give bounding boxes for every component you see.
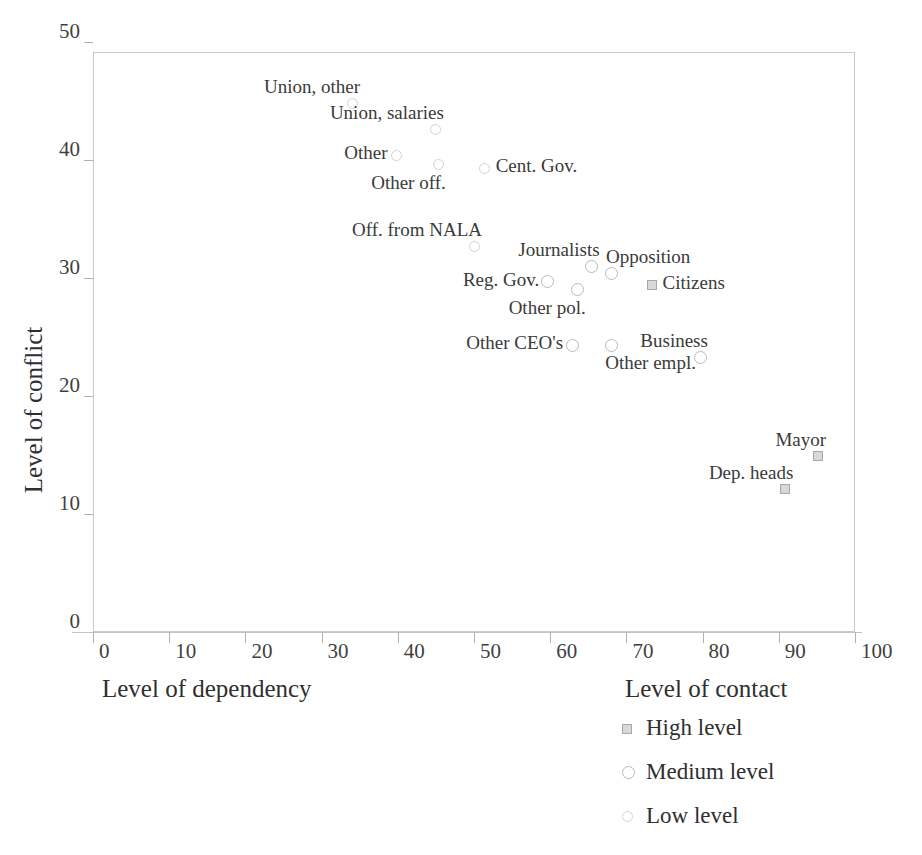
y-tick-mark	[84, 396, 93, 397]
x-tick-mark	[169, 632, 170, 643]
data-point-label: Other off.	[371, 173, 446, 193]
data-point-marker[interactable]	[605, 339, 618, 352]
x-axis-title-dependency: Level of dependency	[102, 675, 312, 703]
y-tick-label: 0	[34, 611, 80, 632]
legend-item-low[interactable]: Low level	[622, 803, 852, 847]
x-tick-mark	[398, 632, 399, 643]
x-tick-label: 10	[175, 640, 196, 662]
x-tick-mark	[474, 632, 475, 643]
x-tick-mark	[245, 632, 246, 643]
data-point-marker[interactable]	[585, 260, 598, 273]
data-point-marker[interactable]	[694, 351, 707, 364]
y-tick-mark	[84, 42, 93, 43]
y-tick-label: 50	[34, 21, 80, 42]
x-tick-label: 0	[99, 640, 110, 662]
x-axis-line	[72, 632, 862, 633]
data-point-marker[interactable]	[647, 280, 657, 290]
data-point-marker[interactable]	[780, 484, 790, 494]
legend-item-high[interactable]: High level	[622, 715, 852, 759]
data-point-label: Other pol.	[509, 298, 586, 318]
data-point-label: Reg. Gov.	[463, 270, 539, 290]
x-tick-label: 90	[785, 640, 806, 662]
data-point-label: Union, salaries	[330, 103, 444, 123]
y-tick-mark	[84, 514, 93, 515]
data-point-label: Citizens	[663, 273, 725, 293]
x-tick-label: 50	[480, 640, 501, 662]
x-tick-mark	[626, 632, 627, 643]
x-tick-label: 70	[632, 640, 653, 662]
data-point-marker[interactable]	[813, 451, 823, 461]
legend-swatch-low-icon	[622, 811, 633, 822]
x-tick-mark	[93, 632, 94, 643]
x-tick-mark	[322, 632, 323, 643]
data-point-marker[interactable]	[433, 159, 444, 170]
x-tick-label: 60	[556, 640, 577, 662]
x-tick-label: 20	[251, 640, 272, 662]
legend-swatch-medium-icon	[622, 766, 635, 779]
x-tick-mark	[855, 632, 856, 643]
data-point-marker[interactable]	[479, 163, 490, 174]
legend-item-medium[interactable]: Medium level	[622, 759, 852, 803]
y-tick-label: 40	[34, 139, 80, 160]
x-tick-mark	[779, 632, 780, 643]
legend-swatch-high-icon	[622, 724, 632, 734]
data-point-label: Other CEO's	[466, 333, 563, 353]
x-axis-title-contact: Level of contact	[625, 675, 787, 703]
data-point-label: Opposition	[606, 247, 690, 267]
legend: High levelMedium levelLow level	[622, 715, 852, 847]
x-tick-label: 40	[404, 640, 425, 662]
legend-label: Medium level	[646, 759, 774, 785]
data-point-label: Dep. heads	[709, 463, 793, 483]
legend-label: Low level	[646, 803, 739, 829]
x-tick-label: 30	[328, 640, 349, 662]
data-point-marker[interactable]	[391, 150, 402, 161]
legend-label: High level	[646, 715, 742, 741]
data-point-label: Union, other	[264, 77, 360, 97]
data-point-label: Business	[640, 331, 708, 351]
y-tick-mark	[84, 278, 93, 279]
data-point-marker[interactable]	[469, 241, 480, 252]
y-axis-title: Level of conflict	[20, 300, 48, 520]
data-point-label: Other empl.	[605, 353, 696, 373]
data-point-label: Off. from NALA	[352, 220, 482, 240]
data-point-label: Journalists	[518, 240, 599, 260]
x-tick-label: 100	[861, 640, 893, 662]
data-point-label: Mayor	[775, 430, 826, 450]
x-tick-mark	[550, 632, 551, 643]
chart-root: 01020304050 0102030405060708090100 Union…	[0, 0, 922, 855]
y-tick-label: 30	[34, 257, 80, 278]
data-point-label: Other	[344, 143, 387, 163]
y-tick-mark	[84, 160, 93, 161]
x-tick-label: 80	[709, 640, 730, 662]
data-point-label: Cent. Gov.	[496, 156, 578, 176]
data-point-marker[interactable]	[566, 339, 579, 352]
x-tick-mark	[703, 632, 704, 643]
